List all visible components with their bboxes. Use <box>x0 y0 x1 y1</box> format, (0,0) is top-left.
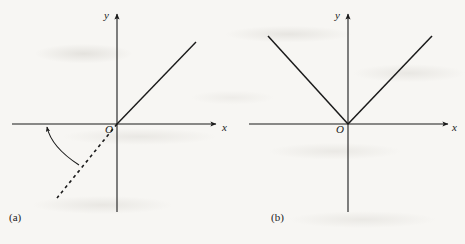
figure-a-dashed-ray <box>57 124 117 198</box>
figure-b-right-arm <box>348 36 432 124</box>
figure-b-origin-label: O <box>336 124 344 135</box>
figure-a-group <box>12 14 216 212</box>
diagram-canvas <box>0 0 465 244</box>
figure-a-origin-label: O <box>105 124 113 135</box>
figure-b-y-axis-label: y <box>335 10 340 21</box>
figure-b-caption: (b) <box>271 212 284 223</box>
figure-a-inclination-angle-arc <box>47 127 79 165</box>
figure-b-x-axis-label: x <box>452 122 457 133</box>
figure-page: x y O (a) x y O (b) <box>0 0 465 244</box>
figure-a-y-axis-label: y <box>104 10 109 21</box>
figure-a-solid-ray <box>117 42 196 124</box>
figure-a-x-axis-label: x <box>222 122 227 133</box>
figure-b-left-arm <box>268 36 348 124</box>
figure-a-caption: (a) <box>9 212 21 223</box>
figure-b-group <box>249 14 448 212</box>
